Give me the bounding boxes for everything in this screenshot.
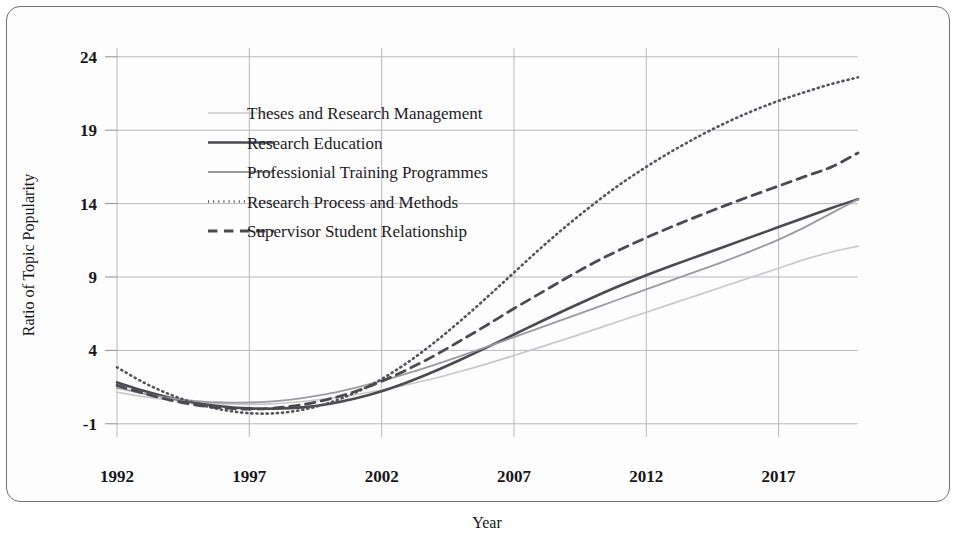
x-tick-label: 2012: [629, 467, 663, 486]
legend-label: Research Process and Methods: [247, 193, 458, 212]
y-tick-label: -1: [83, 415, 97, 434]
x-tick-label: 1992: [100, 467, 134, 486]
y-axis-title: Ratio of Topic Popularity: [20, 174, 38, 337]
legend-label: Professionial Training Programmes: [247, 163, 488, 182]
legend: Theses and Research ManagementResearch E…: [208, 104, 488, 241]
y-axis-tick-labels: -149141924: [80, 48, 98, 434]
grid-lines: [117, 48, 858, 437]
x-axis-tick-labels: 199219972002200720122017: [100, 467, 796, 486]
y-tick-label: 14: [80, 195, 98, 214]
legend-label: Supervisor Student Relationship: [247, 222, 467, 241]
x-tick-label: 2007: [497, 467, 532, 486]
y-tick-label: 4: [89, 341, 98, 360]
tick-marks: [105, 57, 117, 424]
series-line: [117, 153, 858, 409]
x-tick-label: 2017: [762, 467, 797, 486]
x-tick-label: 2002: [365, 467, 399, 486]
line-chart: -149141924 199219972002200720122017 Thes…: [0, 0, 967, 543]
legend-label: Theses and Research Management: [247, 104, 483, 123]
y-tick-label: 9: [89, 268, 98, 287]
x-tick-label: 1997: [232, 467, 267, 486]
x-axis-title: Year: [472, 514, 502, 531]
data-series-group: [117, 77, 858, 413]
y-tick-label: 24: [80, 48, 98, 67]
y-tick-label: 19: [80, 121, 97, 140]
legend-label: Research Education: [247, 134, 383, 153]
